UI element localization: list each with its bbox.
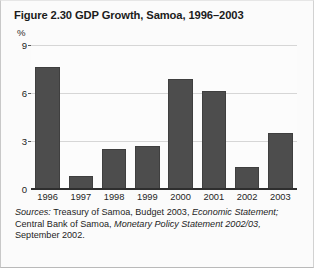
bar-2000 <box>168 79 193 189</box>
y-axis-tick-label: 3 <box>15 136 27 147</box>
bar-2002 <box>235 167 260 189</box>
source-label: Sources: <box>15 207 51 217</box>
x-axis-tick-label: 1998 <box>98 192 131 202</box>
bar-2003 <box>268 133 293 189</box>
source-note: Sources: Treasury of Samoa, Budget 2003,… <box>15 207 303 242</box>
y-axis-tick-mark <box>28 141 31 142</box>
y-axis-unit-label: % <box>17 27 26 38</box>
source-line2-roman: Central Bank of Samoa, <box>15 219 112 229</box>
bar-1996 <box>35 67 60 189</box>
source-line1-roman: Treasury of Samoa, Budget 2003, <box>53 207 189 217</box>
source-line3: September 2002. <box>15 230 85 240</box>
bar-1999 <box>135 146 160 189</box>
bars-layer <box>31 45 297 189</box>
x-axis-line <box>31 188 297 190</box>
x-axis-tick-label: 2002 <box>231 192 264 202</box>
x-axis-tick-label: 1999 <box>131 192 164 202</box>
bar-1998 <box>102 149 127 189</box>
figure-container: Figure 2.30 GDP Growth, Samoa, 1996–2003… <box>0 0 314 268</box>
y-axis-tick-mark <box>28 45 31 46</box>
x-axis-tick-label: 1997 <box>64 192 97 202</box>
x-axis-tick-label: 2000 <box>164 192 197 202</box>
source-line2-italic: Monetary Policy Statement 2002/03, <box>114 219 261 229</box>
y-axis-tick-mark <box>28 93 31 94</box>
source-line1-italic: Economic Statement; <box>192 207 278 217</box>
y-axis-tick-label: 9 <box>15 40 27 51</box>
x-axis-tick-label: 1996 <box>31 192 64 202</box>
bar-2001 <box>202 91 227 189</box>
y-axis-tick-label: 0 <box>15 184 27 195</box>
x-axis-tick-label: 2001 <box>197 192 230 202</box>
figure-title: Figure 2.30 GDP Growth, Samoa, 1996–2003 <box>14 9 300 21</box>
y-axis-tick-label: 6 <box>15 88 27 99</box>
x-axis-tick-label: 2003 <box>264 192 297 202</box>
